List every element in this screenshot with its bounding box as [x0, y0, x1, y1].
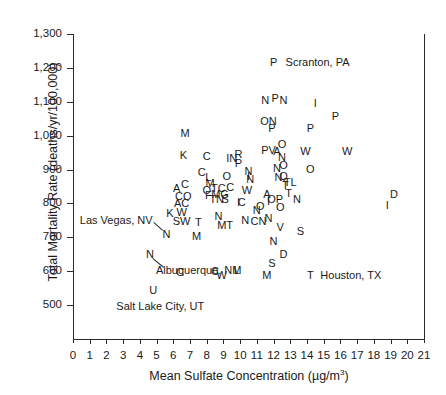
data-point-marker: D — [280, 249, 288, 260]
x-axis-tick — [190, 339, 191, 344]
x-axis-tick — [140, 339, 141, 344]
x-axis-tick — [207, 339, 208, 344]
data-point-marker: L — [205, 172, 211, 183]
data-point-marker: C — [226, 182, 234, 193]
data-point-marker: S — [268, 257, 275, 268]
data-point-marker: D — [390, 188, 398, 199]
data-point-marker: I — [386, 200, 389, 211]
data-point-marker: K — [180, 149, 187, 160]
plot-right-edge — [424, 34, 425, 339]
data-point-marker: N — [241, 215, 249, 226]
data-point-marker: P — [307, 123, 314, 134]
data-point-marker: N — [280, 95, 288, 106]
annotation-leader-line — [153, 222, 163, 231]
x-axis-title-close: ) — [344, 369, 348, 383]
x-axis-tick — [407, 339, 408, 344]
data-point-marker: M — [262, 270, 271, 281]
data-point-marker: O — [222, 171, 231, 182]
data-point-marker: W — [242, 184, 252, 195]
data-point-marker: T — [195, 217, 202, 228]
data-point-marker: N — [270, 235, 278, 246]
data-point-marker: W — [300, 145, 310, 156]
data-point-marker: S — [297, 226, 304, 237]
data-point-marker: O — [306, 163, 315, 174]
x-axis-tick — [324, 339, 325, 344]
data-point-marker: I — [247, 171, 250, 182]
data-point-marker: C — [181, 178, 189, 189]
data-point-marker: M — [192, 231, 201, 242]
x-axis-tick — [357, 339, 358, 344]
data-point-marker: SW — [173, 216, 191, 227]
data-point-marker: I — [237, 196, 240, 207]
annotation-scranton: Scranton, PA — [286, 57, 350, 68]
data-point-marker: C — [203, 151, 211, 162]
x-axis-tick — [340, 339, 341, 344]
data-point-marker: V — [277, 222, 284, 233]
x-axis-tick — [391, 339, 392, 344]
x-axis-tick — [157, 339, 158, 344]
data-point-marker: I — [314, 98, 317, 109]
data-point-marker: O — [276, 201, 285, 212]
x-axis-tick — [307, 339, 308, 344]
x-axis-tick — [223, 339, 224, 344]
annotation-houston: Houston, TX — [320, 270, 381, 281]
annotation-las-vegas: Las Vegas, NV — [80, 215, 153, 226]
data-point-marker: P — [235, 158, 242, 169]
x-axis-tick — [123, 339, 124, 344]
y-axis-title: Total Mortality Rate (deaths/yr/100,000) — [46, 22, 60, 322]
data-point-marker: T — [285, 188, 292, 199]
x-axis-tick — [173, 339, 174, 344]
x-axis-tick-label: 21 — [414, 350, 434, 362]
x-axis-title-base: Mean Sulfate Concentration (µg/m — [149, 369, 340, 383]
data-point-marker: O — [278, 139, 287, 150]
data-point-marker: N — [293, 194, 301, 205]
data-point-marker: P — [270, 56, 277, 67]
x-axis-tick — [90, 339, 91, 344]
x-axis-tick — [240, 339, 241, 344]
x-axis-tick — [274, 339, 275, 344]
annotation-albuquerque: Albuquerque, NM — [156, 265, 242, 276]
data-point-marker: MT — [217, 220, 233, 231]
data-point-marker: M — [180, 127, 189, 138]
data-point-marker: CN — [251, 216, 267, 227]
x-axis-tick — [257, 339, 258, 344]
x-axis-line — [73, 339, 425, 340]
data-point-marker: P — [268, 123, 275, 134]
data-point-marker: N — [163, 228, 171, 239]
x-axis-title: Mean Sulfate Concentration (µg/m3) — [73, 368, 425, 383]
data-point-marker: N — [261, 95, 269, 106]
data-point-marker: T — [307, 269, 314, 280]
data-point-marker: P — [272, 93, 279, 104]
data-point-marker: U — [149, 284, 157, 295]
data-point-marker: W — [342, 145, 352, 156]
data-point-marker: S — [221, 194, 228, 205]
x-axis-tick — [290, 339, 291, 344]
data-point-marker: P — [332, 111, 339, 122]
x-axis-tick — [106, 339, 107, 344]
scatter-plot-figure: 5006007008009001,0001,1001,2001,300 0123… — [0, 0, 446, 395]
data-point-marker: O — [256, 201, 265, 212]
x-axis-tick — [374, 339, 375, 344]
annotation-salt-lake: Salt Lake City, UT — [116, 301, 204, 312]
x-axis-tick — [424, 335, 425, 343]
plot-area: MKCACCOACKWSWTNNCUMFOTCMGTNSCCLNMTMCWLOI… — [73, 34, 424, 339]
